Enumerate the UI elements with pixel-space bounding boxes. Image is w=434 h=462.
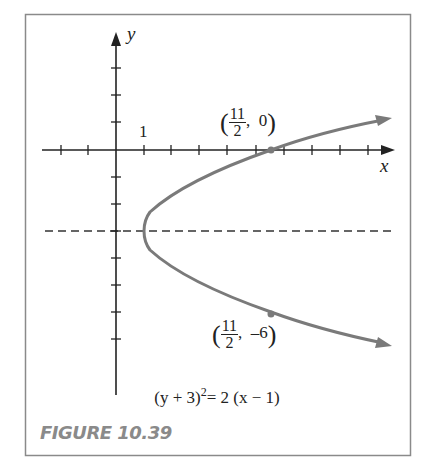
point-bottom-label: (112, –6): [212, 318, 277, 351]
y-axis-label: y: [127, 23, 135, 45]
tick-label-one: 1: [139, 122, 148, 142]
equation: (y + 3)2= 2 (x − 1): [0, 385, 434, 408]
x-axis-label: x: [380, 155, 388, 177]
point-top-label: (112, 0): [220, 106, 276, 139]
point-bottom: [268, 311, 275, 318]
point-top: [268, 147, 275, 154]
figure-caption: FIGURE 10.39: [40, 422, 172, 443]
